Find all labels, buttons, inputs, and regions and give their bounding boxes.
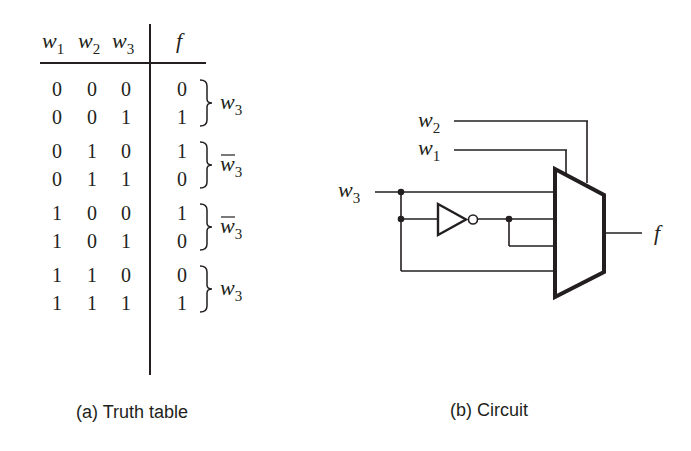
header-w1-sub: 1 xyxy=(57,41,65,57)
cell-f: 1 xyxy=(177,140,187,162)
cell-input: 0 xyxy=(52,106,62,128)
junction-dot xyxy=(398,189,405,196)
cell-input: 1 xyxy=(52,292,62,314)
header-w2-var: w xyxy=(78,28,93,53)
cell-input: 0 xyxy=(87,106,97,128)
figure: w1 w2 w3 f 00000011010101101001101011001… xyxy=(0,0,691,451)
cell-input: 1 xyxy=(52,230,62,252)
junction-dot xyxy=(506,216,513,223)
header-w3-var: w xyxy=(112,28,127,53)
cell-input: 1 xyxy=(121,168,131,190)
brace-icon xyxy=(200,142,212,188)
cell-f: 1 xyxy=(177,292,187,314)
cell-input: 1 xyxy=(87,140,97,162)
cell-input: 1 xyxy=(121,106,131,128)
header-w1-var: w xyxy=(42,28,57,53)
cell-input: 0 xyxy=(121,202,131,224)
multiplexer-icon xyxy=(555,169,604,297)
cell-input: 0 xyxy=(121,78,131,100)
cell-input: 1 xyxy=(87,292,97,314)
svg-text:w1: w1 xyxy=(42,28,64,57)
inverter-icon xyxy=(438,204,466,235)
truth-table-header: w1 w2 w3 f xyxy=(42,28,185,57)
cell-input: 1 xyxy=(52,264,62,286)
cell-input: 1 xyxy=(87,168,97,190)
brace-icon xyxy=(200,204,212,250)
label-w3: w3 xyxy=(338,177,360,206)
cell-input: 1 xyxy=(121,230,131,252)
circuit xyxy=(375,121,642,297)
svg-text:w3: w3 xyxy=(112,28,134,57)
cell-f: 1 xyxy=(177,106,187,128)
cell-input: 0 xyxy=(87,202,97,224)
caption-truth-table: (a) Truth table xyxy=(76,402,188,423)
svg-text:w2: w2 xyxy=(78,28,100,57)
junction-dot xyxy=(398,216,405,223)
group-label-w3: w3 xyxy=(220,89,242,118)
cell-input: 0 xyxy=(121,140,131,162)
header-f: f xyxy=(176,28,185,53)
group-braces: w3w3w3w3 xyxy=(200,80,242,312)
group-label-w3: w3 xyxy=(220,275,242,304)
cell-input: 0 xyxy=(52,78,62,100)
inverter-bubble-icon xyxy=(469,215,478,224)
cell-f: 0 xyxy=(177,168,187,190)
label-w1: w1 xyxy=(418,135,440,164)
cell-input: 1 xyxy=(87,264,97,286)
header-w2-sub: 2 xyxy=(93,41,101,57)
cell-input: 0 xyxy=(87,230,97,252)
caption-circuit: (b) Circuit xyxy=(450,400,528,421)
label-f: f xyxy=(654,220,663,245)
cell-input: 1 xyxy=(52,202,62,224)
header-w3-sub: 3 xyxy=(127,41,135,57)
cell-f: 0 xyxy=(177,230,187,252)
cell-input: 0 xyxy=(121,264,131,286)
cell-input: 0 xyxy=(87,78,97,100)
cell-f: 1 xyxy=(177,202,187,224)
cell-f: 0 xyxy=(177,78,187,100)
cell-f: 0 xyxy=(177,264,187,286)
brace-icon xyxy=(200,80,212,126)
cell-input: 0 xyxy=(52,140,62,162)
brace-icon xyxy=(200,266,212,312)
cell-input: 0 xyxy=(52,168,62,190)
truth-table-rows: 00000011010101101001101011001111 xyxy=(52,78,187,314)
cell-input: 1 xyxy=(121,292,131,314)
label-w2: w2 xyxy=(418,107,440,136)
